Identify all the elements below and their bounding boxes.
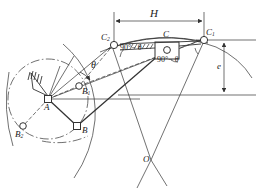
label-angle-90-minus-theta-left: 90°− θ bbox=[120, 44, 142, 52]
reference-lines bbox=[48, 40, 256, 99]
label-point-o: O bbox=[143, 155, 150, 164]
label-angle-90-minus-theta-right: 90°− θ bbox=[157, 56, 179, 64]
joint-c2 bbox=[110, 41, 117, 48]
label-point-c2: C2 bbox=[101, 33, 110, 43]
label-point-b2: B2 bbox=[15, 130, 23, 140]
ground-support-hatching bbox=[28, 71, 48, 96]
line-a-up-2 bbox=[48, 56, 74, 99]
label-point-b: B bbox=[82, 126, 88, 135]
label-stroke-H: H bbox=[150, 8, 158, 19]
arc-from-c2-through-o bbox=[112, 46, 167, 186]
label-angle-theta: θ bbox=[91, 60, 96, 70]
label-point-b2-sub: 2 bbox=[21, 133, 24, 139]
label-offset-e: e bbox=[217, 62, 221, 71]
joint-b bbox=[74, 123, 81, 130]
label-point-c1-sub: 1 bbox=[212, 31, 215, 37]
label-pivot-a: A bbox=[44, 103, 50, 112]
label-point-b1: B1 bbox=[82, 87, 90, 97]
angle-arc-c1 bbox=[195, 48, 198, 54]
label-point-b1-sub: 1 bbox=[88, 90, 91, 96]
mechanism-diagram-canvas: H e θ 90°− θ 90°− θ A B B1 B2 C C1 C2 O bbox=[0, 0, 259, 189]
linkage-drawing bbox=[0, 0, 259, 189]
sweep-arc-b-inner bbox=[42, 136, 88, 143]
label-point-c2-sub: 2 bbox=[107, 36, 110, 42]
label-point-c: C bbox=[163, 30, 169, 39]
label-point-c1: C1 bbox=[206, 28, 215, 38]
bar-a-b bbox=[48, 99, 77, 126]
stroke-dimension-H bbox=[114, 12, 204, 46]
sweep-arc-left bbox=[6, 72, 13, 146]
